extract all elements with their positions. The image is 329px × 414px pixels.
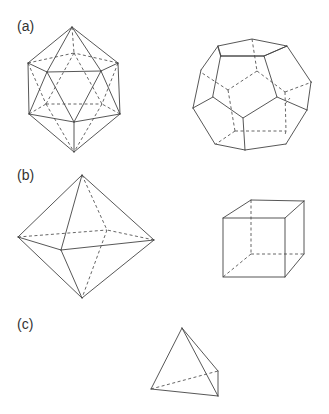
tetrahedron (151, 328, 218, 396)
icosahedron (28, 27, 120, 152)
octahedron (18, 175, 154, 298)
platonic-solids-figure (0, 0, 329, 414)
dodecahedron (193, 39, 312, 150)
cube (223, 200, 304, 277)
